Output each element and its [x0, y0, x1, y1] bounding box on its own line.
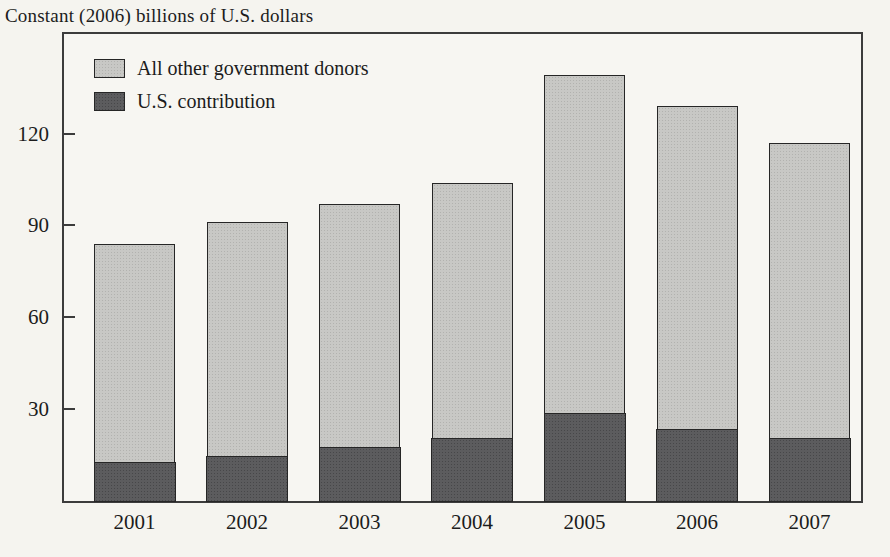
bar-segment-us-contribution-2003 — [319, 447, 401, 502]
bar-segment-us-contribution-2005 — [544, 413, 626, 502]
bar-2003 — [319, 204, 400, 501]
y-tick-mark-90 — [64, 224, 75, 226]
bar-segment-us-contribution-2004 — [431, 438, 513, 502]
y-tick-label-30: 30 — [0, 396, 49, 422]
x-tick-label-2005: 2005 — [540, 509, 630, 535]
x-tick-label-2003: 2003 — [315, 509, 405, 535]
bar-segment-us-contribution-2001 — [94, 462, 176, 502]
legend-label-all-other-government-donors: All other government donors — [137, 57, 369, 79]
bar-2001 — [94, 244, 175, 501]
bar-segment-us-contribution-2002 — [206, 456, 288, 502]
legend-swatch-us-contribution — [94, 92, 125, 111]
bar-2005 — [544, 75, 625, 501]
y-tick-mark-120 — [64, 133, 75, 135]
y-tick-mark-30 — [64, 408, 75, 410]
plot-area: All other government donors U.S. contrib… — [62, 32, 863, 503]
y-tick-label-60: 60 — [0, 304, 49, 330]
x-tick-label-2002: 2002 — [202, 509, 292, 535]
bar-segment-us-contribution-2006 — [656, 429, 738, 502]
figure-official-development-assistance-chart: Constant (2006) billions of U.S. dollars… — [0, 0, 890, 557]
legend-swatch-all-other-government-donors — [94, 59, 125, 78]
legend-item-all-other-government-donors: All other government donors — [94, 57, 369, 79]
bar-2007 — [769, 143, 850, 501]
x-tick-label-2004: 2004 — [427, 509, 517, 535]
y-tick-label-120: 120 — [0, 121, 49, 147]
legend-label-us-contribution: U.S. contribution — [137, 90, 275, 112]
bar-2006 — [657, 106, 738, 501]
legend: All other government donors U.S. contrib… — [94, 57, 369, 112]
legend-item-us-contribution: U.S. contribution — [94, 90, 369, 112]
x-tick-label-2007: 2007 — [765, 509, 855, 535]
y-tick-mark-60 — [64, 316, 75, 318]
x-tick-label-2001: 2001 — [90, 509, 180, 535]
bar-segment-us-contribution-2007 — [769, 438, 851, 502]
y-tick-label-90: 90 — [0, 212, 49, 238]
y-axis-units-title: Constant (2006) billions of U.S. dollars — [5, 5, 313, 27]
x-tick-label-2006: 2006 — [652, 509, 742, 535]
bar-2002 — [207, 222, 288, 501]
bar-2004 — [432, 183, 513, 501]
